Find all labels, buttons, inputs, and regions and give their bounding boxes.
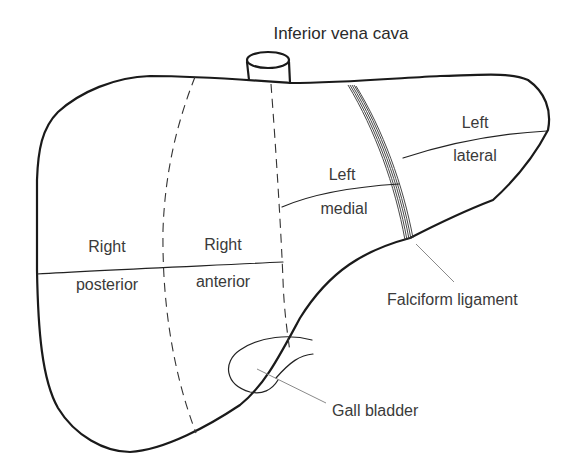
dashed-boundary-middle [271,84,290,352]
falciform-ligament-label: Falciform ligament [387,291,518,308]
segment-right-anterior-line1: Right [204,236,242,253]
segment-right-posterior-line1: Right [88,238,126,255]
liver-segments-diagram: Inferior vena cava Right posterior Right… [0,0,581,469]
inferior-vena-cava-label: Inferior vena cava [273,24,409,43]
segment-right-posterior-line2: posterior [76,276,139,293]
liver-outline [37,75,549,452]
segment-left-lateral-line1: Left [462,114,489,131]
segment-left-medial-line1: Left [329,166,356,183]
segment-left-medial-line2: medial [320,200,367,217]
gall-bladder-shape [229,337,313,393]
inferior-vena-cava-shape [247,52,290,83]
gall-bladder-label: Gall bladder [332,402,419,419]
falciform-leader-line [416,244,454,282]
segment-left-lateral-line2: lateral [453,147,497,164]
dashed-boundary-right [163,77,196,433]
diagram-svg: Inferior vena cava Right posterior Right… [0,0,581,469]
segment-right-anterior-line2: anterior [196,273,251,290]
gallbladder-leader-line [257,369,326,403]
